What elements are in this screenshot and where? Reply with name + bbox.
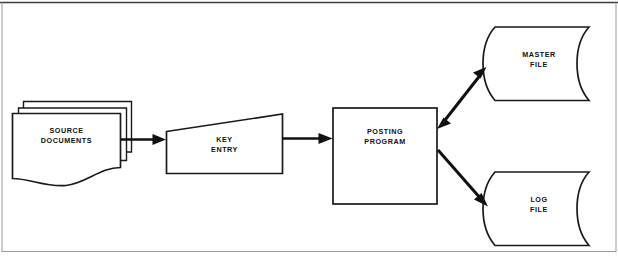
edge-posting-to-master	[437, 67, 487, 129]
edge-posting-to-master-line	[444, 74, 482, 123]
flowchart-diagram: SOURCE DOCUMENTS KEY ENTRY POSTING PROGR…	[0, 0, 618, 268]
node-posting-program[interactable]: POSTING PROGRAM	[333, 108, 437, 204]
edge-posting-to-log-line	[438, 150, 481, 199]
node-log-file[interactable]: LOG FILE	[483, 172, 589, 246]
diagram-canvas: SOURCE DOCUMENTS KEY ENTRY POSTING PROGR…	[0, 0, 618, 268]
key-entry-label-line2: ENTRY	[211, 145, 238, 154]
edge-posting-to-master-arrowhead-down	[437, 118, 451, 130]
source-documents-label-line2: DOCUMENTS	[41, 136, 92, 145]
node-source-documents[interactable]: SOURCE DOCUMENTS	[13, 102, 132, 186]
edge-key-entry-to-posting	[283, 133, 333, 144]
log-file-label-line1: LOG	[530, 195, 547, 204]
document-front-sheet	[13, 114, 121, 186]
edge-posting-to-log	[438, 150, 488, 207]
master-file-label-line2: FILE	[530, 60, 548, 69]
posting-program-label-line2: PROGRAM	[364, 137, 405, 146]
process-box-shape	[333, 108, 437, 204]
node-master-file[interactable]: MASTER FILE	[483, 27, 589, 101]
node-key-entry[interactable]: KEY ENTRY	[167, 114, 283, 174]
posting-program-label-line1: POSTING	[367, 127, 403, 136]
key-entry-label-line1: KEY	[216, 135, 232, 144]
master-file-label-line1: MASTER	[522, 50, 556, 59]
edge-key-entry-to-posting-arrowhead	[319, 133, 333, 144]
edge-source-to-key-entry-arrowhead	[153, 134, 167, 145]
log-file-label-line2: FILE	[530, 205, 548, 214]
source-documents-label-line1: SOURCE	[49, 126, 83, 135]
